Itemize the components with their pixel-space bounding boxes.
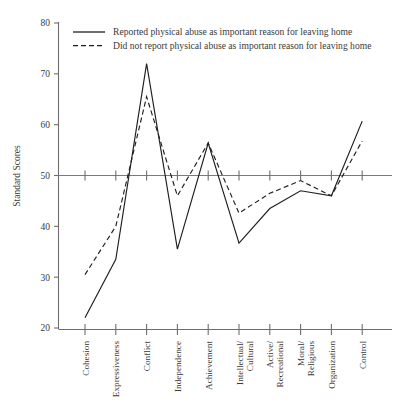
y-axis-title: Standard Scores xyxy=(12,145,22,207)
x-tick-label: Religious xyxy=(306,341,316,377)
chart-container: Reported physical abuse as important rea… xyxy=(0,0,408,414)
y-tick-label: 40 xyxy=(41,222,51,232)
y-tick-label: 20 xyxy=(41,323,51,333)
x-axis-labels: CohesionExpressivenessConflictIndependen… xyxy=(81,341,368,398)
y-tick-label: 30 xyxy=(41,273,51,283)
x-tick-label: Moral/ xyxy=(296,341,306,366)
series-line-2 xyxy=(85,97,362,275)
x-tick-label: Conflict xyxy=(142,341,152,372)
chart-series xyxy=(85,64,362,318)
x-tick-label: Intellectual/ xyxy=(235,341,245,385)
reference-line-50 xyxy=(59,171,393,181)
y-axis-ticks: 20304050607080 xyxy=(41,18,60,333)
x-tick-label: Recreational xyxy=(275,341,285,388)
x-tick-label: Control xyxy=(358,341,368,370)
y-tick-label: 60 xyxy=(41,120,51,130)
legend-label-1: Reported physical abuse as important rea… xyxy=(113,26,352,37)
legend-label-2: Did not report physical abuse as importa… xyxy=(113,40,371,51)
y-tick-label: 70 xyxy=(41,69,51,79)
x-tick-label: Expressiveness xyxy=(111,341,121,398)
x-tick-label: Independence xyxy=(173,341,183,392)
y-tick-label: 50 xyxy=(41,171,51,181)
line-chart: Reported physical abuse as important rea… xyxy=(0,0,408,414)
series-line-1 xyxy=(85,64,362,318)
x-tick-label: Achievement xyxy=(204,341,214,390)
chart-legend: Reported physical abuse as important rea… xyxy=(73,26,371,51)
x-tick-label: Organization xyxy=(327,341,337,389)
y-tick-label: 80 xyxy=(41,18,51,28)
x-tick-label: Cultural xyxy=(245,341,255,372)
x-tick-label: Cohesion xyxy=(81,341,91,376)
x-tick-label: Active/ xyxy=(265,341,275,368)
